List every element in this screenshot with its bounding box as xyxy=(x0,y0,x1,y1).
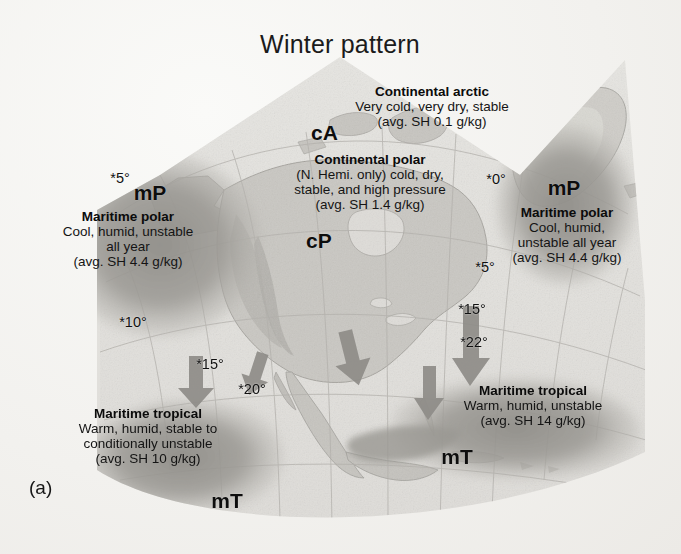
temp-marker-north-atlantic: *0° xyxy=(486,171,506,187)
airmass-label-mT-pacific: Maritime tropical Warm, humid, stable to… xyxy=(79,406,217,466)
airmass-label-cP: Continental polar (N. Hemi. only) cold, … xyxy=(294,152,446,212)
airmass-desc-mT-pacific-2: conditionally unstable xyxy=(79,436,217,451)
airmass-name-mP-atlantic: Maritime polar xyxy=(513,205,622,220)
airmass-desc-cP-2: stable, and high pressure xyxy=(294,182,446,197)
temp-marker-mid-atlantic: *15° xyxy=(458,301,486,317)
airmass-code-cP: cP xyxy=(306,229,332,253)
airmass-code-mP-pacific: mP xyxy=(134,181,167,205)
airmass-name-cP: Continental polar xyxy=(294,152,446,167)
airmass-desc-cP-3: (avg. SH 1.4 g/kg) xyxy=(294,197,446,212)
map-graphic xyxy=(0,0,681,554)
airmass-label-mP-atlantic: Maritime polar Cool, humid, unstable all… xyxy=(513,205,622,265)
temp-marker-mid-atlantic-north: *5° xyxy=(475,259,495,275)
page-title: Winter pattern xyxy=(260,30,420,58)
temp-marker-south-pacific: *15° xyxy=(196,356,224,372)
airmass-desc-mP-pacific-1: Cool, humid, unstable xyxy=(63,224,194,239)
airmass-desc-mT-pacific-1: Warm, humid, stable to xyxy=(79,421,217,436)
temp-marker-mid-pacific: *10° xyxy=(119,314,147,330)
temp-marker-north-pacific: *5° xyxy=(110,170,130,186)
airmass-code-cA: cA xyxy=(311,121,338,145)
airmass-code-mT-pacific: mT xyxy=(211,489,243,513)
airmass-desc-mP-atlantic-1: Cool, humid, xyxy=(513,220,622,235)
panel-label: (a) xyxy=(29,477,52,498)
figure-root: Winter pattern cA Continental arctic Ver… xyxy=(0,0,681,554)
temp-marker-baja-pacific: *20° xyxy=(238,381,266,397)
airmass-label-cA: Continental arctic Very cold, very dry, … xyxy=(355,84,509,129)
airmass-desc-mT-atlantic-2: (avg. SH 14 g/kg) xyxy=(464,413,602,428)
map-body xyxy=(0,0,681,554)
temp-marker-gulf-atlantic: *22° xyxy=(460,334,488,350)
airmass-name-cA: Continental arctic xyxy=(355,84,509,99)
airmass-desc-mP-pacific-3: (avg. SH 4.4 g/kg) xyxy=(63,254,194,269)
airmass-desc-cA-2: (avg. SH 0.1 g/kg) xyxy=(355,114,509,129)
airmass-desc-cA-1: Very cold, very dry, stable xyxy=(355,99,509,114)
airmass-name-mT-pacific: Maritime tropical xyxy=(79,406,217,421)
airmass-code-mT-atlantic: mT xyxy=(441,445,473,469)
airmass-label-mT-atlantic: Maritime tropical Warm, humid, unstable … xyxy=(464,383,602,428)
airmass-desc-mT-atlantic-1: Warm, humid, unstable xyxy=(464,398,602,413)
airmass-name-mT-atlantic: Maritime tropical xyxy=(464,383,602,398)
airmass-code-mP-atlantic: mP xyxy=(548,176,581,200)
airmass-desc-mP-pacific-2: all year xyxy=(63,239,194,254)
airmass-name-mP-pacific: Maritime polar xyxy=(63,209,194,224)
airmass-desc-cP-1: (N. Hemi. only) cold, dry, xyxy=(294,167,446,182)
airmass-desc-mP-atlantic-3: (avg. SH 4.4 g/kg) xyxy=(513,250,622,265)
airmass-desc-mP-atlantic-2: unstable all year xyxy=(513,235,622,250)
airmass-label-mP-pacific: Maritime polar Cool, humid, unstable all… xyxy=(63,209,194,269)
airmass-desc-mT-pacific-3: (avg. SH 10 g/kg) xyxy=(79,451,217,466)
